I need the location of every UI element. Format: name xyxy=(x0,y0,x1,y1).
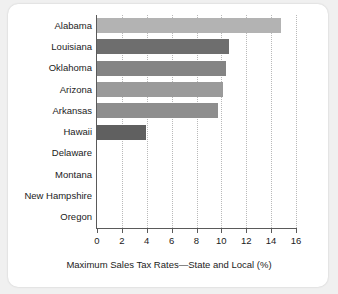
page-background: AlabamaLouisianaOklahomaArizonaArkansasH… xyxy=(0,0,338,294)
category-label-alabama: Alabama xyxy=(12,21,92,31)
category-label-new-hampshire: New Hampshire xyxy=(12,191,92,201)
bar-arkansas xyxy=(97,103,218,118)
bar-alabama xyxy=(97,18,281,33)
category-label-louisiana: Louisiana xyxy=(12,42,92,52)
x-tick-16 xyxy=(296,229,297,233)
x-tick-label-2: 2 xyxy=(110,235,134,246)
x-tick-label-6: 6 xyxy=(160,235,184,246)
x-tick-label-10: 10 xyxy=(209,235,233,246)
category-label-delaware: Delaware xyxy=(12,148,92,158)
x-tick-14 xyxy=(271,229,272,233)
x-tick-10 xyxy=(221,229,222,233)
x-tick-0 xyxy=(97,229,98,233)
x-tick-label-16: 16 xyxy=(284,235,308,246)
bar-arizona xyxy=(97,82,223,97)
category-label-hawaii: Hawaii xyxy=(12,127,92,137)
x-tick-8 xyxy=(197,229,198,233)
category-label-arizona: Arizona xyxy=(12,85,92,95)
x-axis-title: Maximum Sales Tax Rates—State and Local … xyxy=(0,259,338,270)
gridline-16 xyxy=(296,15,297,228)
x-tick-2 xyxy=(122,229,123,233)
x-tick-6 xyxy=(172,229,173,233)
bars-group xyxy=(97,15,296,228)
x-tick-label-4: 4 xyxy=(135,235,159,246)
category-axis-labels: AlabamaLouisianaOklahomaArizonaArkansasH… xyxy=(8,15,92,228)
category-label-oregon: Oregon xyxy=(12,212,92,222)
bar-chart: AlabamaLouisianaOklahomaArizonaArkansasH… xyxy=(0,0,338,294)
bar-oklahoma xyxy=(97,61,226,76)
category-label-oklahoma: Oklahoma xyxy=(12,63,92,73)
bar-hawaii xyxy=(97,125,146,140)
x-tick-label-14: 14 xyxy=(259,235,283,246)
bar-louisiana xyxy=(97,39,229,54)
x-tick-4 xyxy=(147,229,148,233)
x-tick-label-0: 0 xyxy=(85,235,109,246)
x-tick-label-12: 12 xyxy=(234,235,258,246)
x-tick-12 xyxy=(246,229,247,233)
category-label-arkansas: Arkansas xyxy=(12,106,92,116)
x-tick-label-8: 8 xyxy=(185,235,209,246)
category-label-montana: Montana xyxy=(12,170,92,180)
